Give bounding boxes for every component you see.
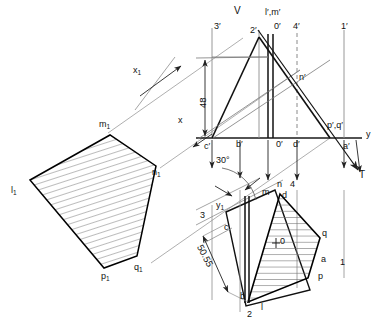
label-d: d [282,191,287,200]
label-m: m [262,188,270,197]
ground-line-label: x [178,116,183,125]
label-2-prime: 2′ [250,26,257,35]
label-1: 1 [340,258,345,267]
label-q: q [322,229,327,238]
y-axis-label: y [366,130,371,139]
angle-30-arrows [215,178,260,196]
angle-30-arc [222,168,256,200]
label-o: 0 [280,237,285,246]
label-b: b [240,292,245,301]
vertical-plane-label: V [234,6,241,16]
label-3-prime: 3′ [214,22,221,31]
dimension-48-text: 48 [198,97,208,108]
label-l1: l1 [11,186,17,195]
label-c: c [224,223,229,232]
label-b-prime: b′ [236,140,243,149]
axis-x1-line [135,57,175,110]
label-d-prime: d′ [293,140,300,149]
label-l: l [261,303,263,312]
label-n: n [277,180,282,189]
label-3: 3 [200,211,205,220]
label-1-prime: 1′ [341,22,348,31]
label-p1: p1 [101,272,110,281]
axis-x1-label: x1 [133,66,141,75]
front-construction-lines [196,57,330,139]
label-0-prime-base: 0′ [276,140,283,149]
label-0-prime-top: 0′ [274,22,281,31]
angle-30-text: 30° [216,156,230,165]
top-view-group [196,168,344,312]
front-ordinate-lines [212,28,344,138]
aux-direction-arrow [140,66,181,96]
axis-y1-label: y1 [216,201,224,210]
label-m1: m1 [99,120,110,129]
front-view-outline [212,37,330,138]
trace-label-T: T [359,170,365,180]
technical-drawing-svg [0,0,385,331]
label-a: a [321,255,326,264]
label-a-prime: a′ [343,142,350,151]
projection-down-arrows [212,140,360,180]
label-n-prime: n′ [299,73,306,82]
label-p: p [318,272,323,281]
label-q1: q1 [134,263,143,272]
label-4: 4 [290,180,295,189]
label-l-m-prime: l′,m′ [265,8,280,17]
label-p-q-prime: p′,q′ [327,121,343,130]
label-n1: n1 [152,168,161,177]
label-4-prime: 4′ [293,22,300,31]
top-view-center-edges [245,196,249,303]
label-c-prime: c′ [204,142,210,151]
axis-y1-line [196,180,283,225]
label-2: 2 [247,310,252,319]
drawing-canvas: V x y x1 y1 T 48 50.55 30° 3′ 2′ l′,m′ 0… [0,0,385,331]
